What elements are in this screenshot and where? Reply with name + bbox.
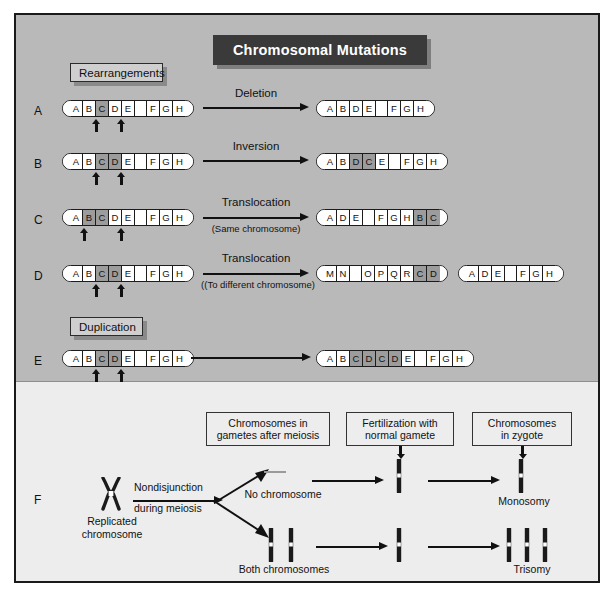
- chromosome-segment-c: C: [376, 351, 389, 366]
- chromosome-segment-a: A: [324, 351, 337, 366]
- chromosome-segment-q: Q: [388, 266, 401, 281]
- branch-2-zygote-chromosome-3: [542, 528, 548, 562]
- chromosome-segment-f: F: [401, 154, 414, 169]
- chromosome-row-d-source: ABCDEFGH: [62, 265, 194, 282]
- tick-arrow-fertilization: [396, 446, 405, 459]
- chromosome-segment-a: A: [70, 154, 83, 169]
- process-arrow-a: [203, 103, 309, 112]
- branch-arrow-down: [212, 497, 272, 541]
- chromosome-cap-left: [63, 266, 70, 281]
- process-arrow-d: [203, 269, 309, 278]
- chromosome-cap-right: [186, 154, 193, 169]
- chromosome-row-e-source: ABCDEFGH: [62, 350, 194, 367]
- chromosome-segment-e: E: [122, 266, 135, 281]
- chromosome-segment-b: B: [83, 101, 96, 116]
- chromosome-segment-p: P: [375, 266, 388, 281]
- branch-1-gamete-label: No chromosome: [238, 488, 328, 501]
- chromosome-cap-right: [440, 154, 447, 169]
- chromosome-segment-d: D: [109, 154, 122, 169]
- chromosome-segment-f: F: [375, 210, 388, 225]
- chromosome-cap-right: [186, 101, 193, 116]
- chromosome-cap-left: [317, 101, 324, 116]
- operation-sublabel-d: ((To different chromosome): [188, 279, 328, 290]
- chromosome-segment-g: G: [401, 101, 414, 116]
- chromosome-segment-a: A: [70, 210, 83, 225]
- chromosome-segment-d: D: [109, 210, 122, 225]
- chromosome-centromere: [363, 210, 375, 225]
- chromosome-centromere: [135, 266, 147, 281]
- replicated-chromosome-caption: Replicated chromosome: [72, 515, 152, 540]
- chromosome-segment-h: H: [173, 266, 186, 281]
- marker-arrow-a-2: [117, 119, 126, 132]
- chromosome-segment-n: N: [337, 266, 350, 281]
- chromosome-segment-d: D: [109, 101, 122, 116]
- chromosome-centromere: [135, 351, 147, 366]
- chromosome-segment-c: C: [427, 210, 440, 225]
- chromosome-segment-b: B: [337, 101, 350, 116]
- chromosome-segment-a: A: [324, 101, 337, 116]
- row-label-c: C: [34, 213, 43, 227]
- header-box-fertilization: Fertilization with normal gamete: [346, 412, 454, 446]
- chromosome-segment-e: E: [492, 266, 505, 281]
- chromosome-segment-c: C: [96, 101, 109, 116]
- chromosome-centromere: [135, 101, 147, 116]
- chromosome-segment-f: F: [147, 210, 160, 225]
- chromosome-segment-f: F: [147, 154, 160, 169]
- chromosomal-mutations-figure: Chromosomal Mutations Rearrangements Dup…: [0, 0, 615, 597]
- chromosome-segment-d: D: [109, 266, 122, 281]
- chromosome-cap-left: [317, 351, 324, 366]
- chromosome-row-e-result-1: ABCDCDEFGH: [316, 350, 474, 367]
- chromosome-segment-e: E: [122, 101, 135, 116]
- chromosome-segment-c: C: [96, 154, 109, 169]
- operation-sublabel-c: (Same chromosome): [196, 223, 316, 234]
- chromosome-cap-left: [63, 351, 70, 366]
- chromosome-segment-g: G: [160, 154, 173, 169]
- chromosome-cap-left: [459, 266, 466, 281]
- chromosome-segment-b: B: [83, 210, 96, 225]
- chromosome-row-a-source: ABCDEFGH: [62, 100, 194, 117]
- marker-arrow-c-1: [80, 228, 89, 241]
- chromosome-segment-d: D: [337, 210, 350, 225]
- chromosome-segment-f: F: [147, 351, 160, 366]
- chromosome-segment-r: R: [401, 266, 414, 281]
- chromosome-segment-g: G: [414, 154, 427, 169]
- chromosome-segment-g: G: [160, 210, 173, 225]
- chromosome-segment-c: C: [96, 266, 109, 281]
- row-label-b: B: [34, 157, 42, 171]
- row-label-a: A: [34, 104, 42, 118]
- chromosome-segment-h: H: [173, 101, 186, 116]
- chromosome-segment-g: G: [440, 351, 453, 366]
- branch-2-gamete-label: Both chromosomes: [234, 563, 334, 576]
- chromosome-segment-e: E: [402, 351, 415, 366]
- chromosome-cap-right: [466, 351, 473, 366]
- operation-label-d: Translocation: [196, 252, 316, 264]
- chromosome-segment-g: G: [160, 101, 173, 116]
- chromosome-row-c-result-1: ADEFGHBC: [316, 209, 448, 226]
- chromosome-cap-left: [317, 210, 324, 225]
- marker-arrow-a-1: [92, 119, 101, 132]
- chromosome-row-b-result-1: ABDCEFGH: [316, 153, 448, 170]
- branch-1-zygote-arrow: [428, 476, 500, 485]
- chromosome-segment-a: A: [70, 266, 83, 281]
- chromosome-cap-right: [556, 266, 563, 281]
- section-label-rearrangements-text: Rearrangements: [79, 67, 165, 79]
- chromosome-segment-g: G: [530, 266, 543, 281]
- operation-label-a: Deletion: [196, 87, 316, 99]
- chromosome-segment-b: B: [83, 351, 96, 366]
- chromosome-segment-a: A: [70, 101, 83, 116]
- chromosome-segment-e: E: [350, 210, 363, 225]
- branch-1-fertilized-chromosome: [396, 459, 402, 493]
- chromosome-segment-h: H: [173, 351, 186, 366]
- marker-arrow-e-2: [117, 369, 126, 382]
- branch-1-fertilization-arrow: [312, 476, 384, 485]
- process-arrow-e: [191, 353, 311, 362]
- chromosome-centromere: [415, 351, 427, 366]
- marker-arrow-b-2: [117, 172, 126, 185]
- chromosome-segment-g: G: [160, 266, 173, 281]
- chromosome-segment-c: C: [363, 154, 376, 169]
- chromosome-segment-d: D: [363, 351, 376, 366]
- replicated-chromosome-caption-line2: chromosome: [82, 528, 143, 540]
- chromosome-segment-h: H: [401, 210, 414, 225]
- branch-1-outcome-label: Monosomy: [478, 495, 570, 508]
- chromosome-cap-right: [186, 210, 193, 225]
